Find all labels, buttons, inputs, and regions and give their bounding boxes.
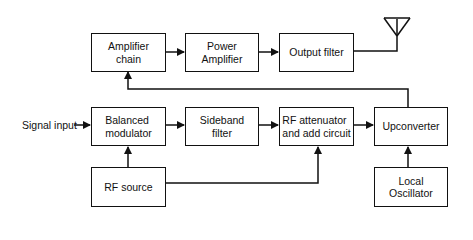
rf-source-block: RF source [91,167,166,207]
rf-attenuator-label: RF attenuator and add circuit [282,114,350,139]
amplifier-chain-block: Amplifier chain [91,33,166,72]
upconverter-label: Upconverter [382,120,439,133]
sideband-filter-label: Sideband filter [200,114,244,139]
local-oscillator-block: Local Oscillator [374,167,448,207]
signal-input-label: Signal input [22,119,77,131]
sideband-filter-block: Sideband filter [185,107,259,146]
amplifier-chain-label: Amplifier chain [108,40,149,65]
balanced-modulator-label: Balanced modulator [105,114,152,139]
power-amplifier-block: Power Amplifier [185,33,259,72]
balanced-modulator-block: Balanced modulator [91,107,166,146]
upconverter-block: Upconverter [374,107,448,146]
power-amplifier-label: Power Amplifier [202,40,243,65]
rf-source-label: RF source [104,181,152,194]
rf-attenuator-block: RF attenuator and add circuit [279,107,354,146]
output-filter-block: Output filter [279,33,354,72]
local-oscillator-label: Local Oscillator [389,175,433,200]
output-filter-label: Output filter [289,46,343,59]
